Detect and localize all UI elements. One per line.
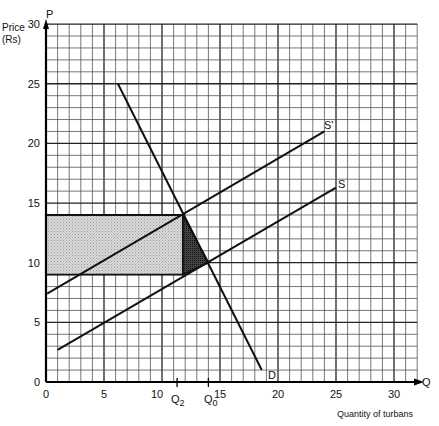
grid-lines <box>46 24 417 382</box>
y-tick-label: 25 <box>28 78 40 90</box>
y-axis-title-line2: (Rs) <box>2 34 25 46</box>
demand-curve-label: D <box>268 369 276 381</box>
x-tick-label: 20 <box>272 388 284 400</box>
y-tick-label: 10 <box>28 257 40 269</box>
y-tick-label: 30 <box>28 18 40 30</box>
x-tick-label: 5 <box>101 388 107 400</box>
y-tick-label: 20 <box>28 137 40 149</box>
x-tick-label: 0 <box>43 388 49 400</box>
supply-curve-label: S <box>338 178 345 190</box>
q2-label-sub: 2 <box>180 398 185 408</box>
y-axis-title: Price (Rs) <box>2 22 25 46</box>
x-axis-title: Quantity of turbans <box>337 408 413 420</box>
y-axis-symbol: P <box>46 8 53 20</box>
q0-label-sub: 0 <box>213 398 218 408</box>
x-tick-label: 10 <box>151 388 163 400</box>
x-tick-label: 30 <box>388 388 400 400</box>
x-axis-symbol: Q <box>422 376 431 388</box>
y-tick-label: 0 <box>34 376 40 388</box>
y-axis-title-line1: Price <box>2 22 25 34</box>
tax-revenue-rectangle <box>46 215 183 275</box>
supply-demand-chart: 051015202530051015202530 <box>0 0 439 426</box>
x-tick-label: 25 <box>330 388 342 400</box>
y-tick-label: 5 <box>34 316 40 328</box>
q2-tick-label: Q2 <box>171 393 185 409</box>
q0-label-main: Q <box>204 393 213 405</box>
tick-labels: 051015202530051015202530 <box>28 18 400 400</box>
shifted-supply-curve-label: S' <box>324 119 333 131</box>
shaded-regions <box>46 215 208 275</box>
deadweight-loss-triangle <box>183 215 209 275</box>
q2-label-main: Q <box>171 393 180 405</box>
y-tick-label: 15 <box>28 197 40 209</box>
q0-tick-label: Q0 <box>204 393 218 409</box>
